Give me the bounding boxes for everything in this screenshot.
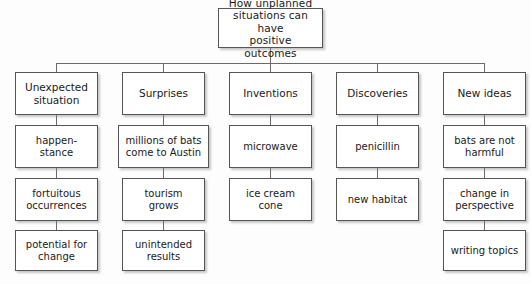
node-title-label: How unplanned situations can have positi… xyxy=(219,0,322,59)
node-branch-1-item-1[interactable]: happen- stance xyxy=(15,125,98,168)
node-label: ice cream cone xyxy=(243,188,298,212)
connector-c1-r2-r3 xyxy=(56,168,57,178)
node-label: microwave xyxy=(240,141,300,153)
connector-c5-r3-r4 xyxy=(484,221,485,230)
node-branch-2-item-1[interactable]: millions of bats come to Austin xyxy=(118,125,209,168)
node-label: Inventions xyxy=(240,87,301,99)
connector-c1-r1-r2 xyxy=(56,115,57,125)
connector-c3-r2-r3 xyxy=(270,168,271,178)
node-branch-head-5[interactable]: New ideas xyxy=(443,72,526,115)
connector-c4-r2-r3 xyxy=(377,168,378,178)
connector-c2-r1-r2 xyxy=(163,115,164,125)
node-branch-2-item-2[interactable]: tourism grows xyxy=(122,178,205,221)
node-branch-2-item-3[interactable]: unintended results xyxy=(122,230,205,271)
node-label: unintended results xyxy=(132,239,195,263)
node-label: bats are not harmful xyxy=(451,135,518,159)
node-label: Discoveries xyxy=(344,87,411,99)
node-branch-head-3[interactable]: Inventions xyxy=(229,72,312,115)
node-title[interactable]: How unplanned situations can have positi… xyxy=(218,8,323,48)
node-branch-4-item-2[interactable]: new habitat xyxy=(336,178,419,221)
node-branch-3-item-1[interactable]: microwave xyxy=(229,125,312,168)
node-label: tourism grows xyxy=(141,188,185,212)
node-label: change in perspective xyxy=(452,188,517,212)
connector-c3-r1-r2 xyxy=(270,115,271,125)
node-branch-head-1[interactable]: Unexpected situation xyxy=(15,72,98,115)
node-label: penicillin xyxy=(352,141,403,153)
node-branch-head-4[interactable]: Discoveries xyxy=(336,72,419,115)
node-label: New ideas xyxy=(454,87,514,99)
connector-c1-r3-r4 xyxy=(56,221,57,230)
node-branch-1-item-2[interactable]: fortuitous occurrences xyxy=(15,178,98,221)
diagram-canvas: How unplanned situations can have positi… xyxy=(0,0,531,284)
connector-c4-r1-r2 xyxy=(377,115,378,125)
node-label: Unexpected situation xyxy=(22,81,91,106)
node-label: happen- stance xyxy=(33,135,80,159)
node-branch-5-item-3[interactable]: writing topics xyxy=(443,230,526,271)
node-branch-head-2[interactable]: Surprises xyxy=(122,72,205,115)
node-branch-5-item-2[interactable]: change in perspective xyxy=(443,178,526,221)
node-branch-1-item-3[interactable]: potential for change xyxy=(15,230,98,271)
node-label: fortuitous occurrences xyxy=(23,188,90,212)
connector-c2-r2-r3 xyxy=(163,168,164,178)
node-branch-4-item-1[interactable]: penicillin xyxy=(336,125,419,168)
node-label: writing topics xyxy=(448,245,522,257)
node-label: millions of bats come to Austin xyxy=(122,135,204,159)
node-label: Surprises xyxy=(136,87,191,99)
node-branch-5-item-1[interactable]: bats are not harmful xyxy=(443,125,526,168)
connector-c2-r3-r4 xyxy=(163,221,164,230)
connector-c5-r1-r2 xyxy=(484,115,485,125)
node-label: potential for change xyxy=(23,239,90,263)
node-branch-3-item-2[interactable]: ice cream cone xyxy=(229,178,312,221)
node-label: new habitat xyxy=(345,194,410,206)
connector-c5-r2-r3 xyxy=(484,168,485,178)
